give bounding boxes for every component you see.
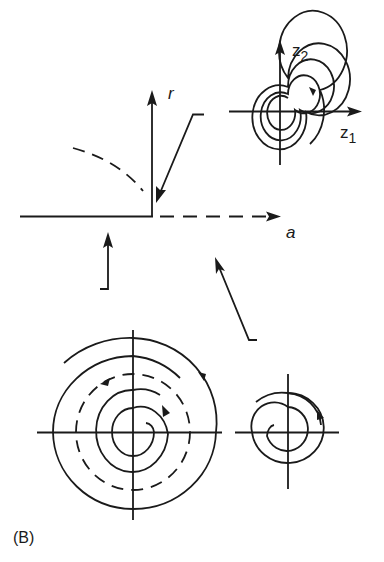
phase-portrait-bottom-left	[37, 330, 222, 520]
unstable-cycle-branch-arc	[73, 148, 143, 191]
pointer-arrow-bottom-left	[100, 244, 108, 289]
a-axis-arrowhead-icon	[266, 212, 281, 222]
a-axis-label: a	[286, 223, 295, 242]
panel-label: (B)	[13, 529, 34, 546]
flow-direction-arrowhead-icon	[100, 378, 110, 386]
pointer-arrow-bottom-right	[219, 267, 257, 340]
hopf-bifurcation-figure: a r z2 z1	[0, 0, 384, 562]
phase-portrait-bottom-right	[235, 374, 339, 489]
spiral-trajectory	[252, 11, 350, 149]
flow-direction-arrowhead-icon	[309, 87, 316, 96]
inner-spiral-trajectory	[96, 389, 168, 472]
outer-spiral-trajectory	[53, 338, 217, 509]
z1-axis-label: z1	[340, 123, 357, 146]
bifurcation-diagram: a r	[20, 84, 295, 340]
spiral-outer-arc	[288, 393, 321, 425]
phase-portrait-top-right: z2 z1	[229, 11, 362, 165]
flow-direction-arrowhead-icon	[162, 405, 170, 417]
pointer-arrow-top-right	[160, 115, 204, 194]
r-axis-label: r	[168, 84, 175, 103]
